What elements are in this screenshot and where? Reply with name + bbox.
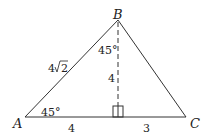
segment-af-label: 4	[68, 122, 75, 135]
side-ab-coefficient: 4	[48, 62, 55, 75]
angle-b-label: 45°	[98, 44, 118, 57]
vertex-b-label: B	[112, 7, 123, 22]
angle-a-label: 45°	[41, 106, 61, 119]
vertex-a-label: A	[12, 116, 22, 131]
vertex-c-label: C	[190, 116, 200, 131]
altitude-length-label: 4	[108, 72, 115, 85]
side-ab-radicand: 2	[61, 62, 68, 75]
segment-fc-label: 3	[143, 122, 150, 135]
side-ab-label: 4 2	[48, 61, 68, 75]
triangle-diagram: B A C 45° 45° 4 4 3 4 2	[0, 0, 209, 139]
